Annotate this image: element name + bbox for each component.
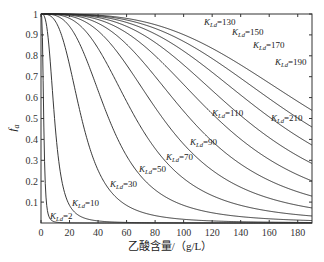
curve-label: KLd=170 xyxy=(252,40,285,51)
curve-label: KLd=210 xyxy=(270,113,303,124)
x-axis-label: 乙酸含量/（g/L） xyxy=(128,239,212,252)
y-tick-label: 0.9 xyxy=(26,29,39,40)
y-tick-label: 0.2 xyxy=(26,176,39,187)
x-tick-label: 120 xyxy=(205,227,220,238)
curve-label: KLd=190 xyxy=(274,57,307,68)
y-tick-label: 0.8 xyxy=(26,50,39,61)
x-tick-label: 20 xyxy=(65,227,75,238)
curve-label: KLd=10 xyxy=(71,198,99,209)
x-tick-label: 40 xyxy=(93,227,103,238)
y-tick-label: 0.6 xyxy=(26,92,39,103)
x-tick-label: 160 xyxy=(262,227,277,238)
y-axis-label: fa xyxy=(6,124,21,131)
curve-k-ld-150 xyxy=(41,14,312,163)
curve-label: KLd=70 xyxy=(165,152,193,163)
x-tick-label: 100 xyxy=(176,227,191,238)
curve-label: KLd=150 xyxy=(231,27,264,38)
x-tick-label: 60 xyxy=(122,227,132,238)
y-tick-label: 0.3 xyxy=(26,155,39,166)
chart: 0204060801001201401601800.10.20.30.40.50… xyxy=(0,0,324,262)
x-tick-label: 80 xyxy=(150,227,160,238)
y-tick-label: 0.7 xyxy=(26,71,39,82)
x-tick-label: 0 xyxy=(39,227,44,238)
curve-label: KLd=110 xyxy=(211,108,244,119)
y-tick-label: 0.4 xyxy=(26,134,39,145)
curve-k-ld-190 xyxy=(41,14,312,127)
curve-k-ld-210 xyxy=(41,14,312,110)
curve-label: KLd=90 xyxy=(189,137,217,148)
x-tick-label: 180 xyxy=(290,227,305,238)
x-tick-label: 140 xyxy=(233,227,248,238)
curve-k-ld-170 xyxy=(41,14,312,145)
y-tick-label: 0.1 xyxy=(26,197,39,208)
curve-label: KLd=2 xyxy=(49,211,72,222)
y-tick-label: 0.5 xyxy=(26,113,39,124)
curve-label: KLd=50 xyxy=(138,164,166,175)
curve-label: KLd=30 xyxy=(109,179,137,190)
y-tick-label: 1 xyxy=(33,9,38,20)
